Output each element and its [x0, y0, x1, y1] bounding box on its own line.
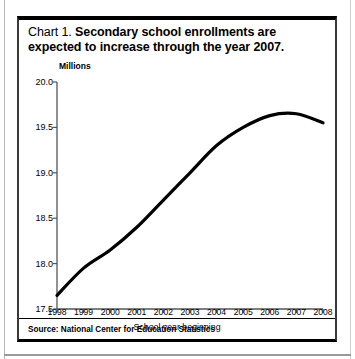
chart-page: Chart 1. Secondary school enrollments ar…: [0, 0, 355, 359]
enrollment-series-line: [57, 113, 323, 295]
y-axis-tick-label: 18.0: [23, 259, 53, 269]
x-axis-tick-label: 2008: [306, 307, 340, 317]
y-axis-tick-label: 18.5: [23, 213, 53, 223]
y-axis-tick-label: 20.0: [23, 77, 53, 87]
line-chart-svg: [19, 20, 335, 339]
figure-container: Chart 1. Secondary school enrollments ar…: [17, 16, 337, 342]
y-axis-tick-labels: 20.019.519.018.518.017.5: [21, 20, 53, 339]
source-note: Source: National Center for Education St…: [28, 325, 215, 334]
y-axis-tick-label: 19.0: [23, 168, 53, 178]
y-axis-tick-label: 19.5: [23, 122, 53, 132]
source-divider: [19, 318, 335, 319]
page-edge-left-rule: [4, 0, 5, 359]
page-edge-right-rule: [350, 0, 351, 359]
plot-area: 20.019.519.018.518.017.5 199819992000200…: [19, 20, 335, 339]
axis-group: [53, 82, 323, 313]
page-edge-bottom-rule: [4, 354, 351, 356]
